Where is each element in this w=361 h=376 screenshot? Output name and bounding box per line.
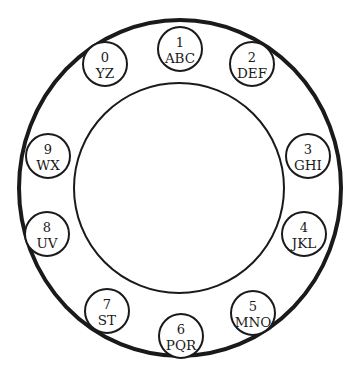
inner-circle xyxy=(74,83,284,293)
finger-hole-6[interactable]: 6PQR xyxy=(159,314,203,358)
finger-hole-7[interactable]: 7ST xyxy=(85,289,129,333)
hole-digit: 5 xyxy=(249,299,257,314)
rotary-dial: 1ABC2DEF3GHI4JKL5MNO6PQR7ST8UV9WX0YZ xyxy=(0,0,361,376)
hole-digit: 6 xyxy=(177,322,185,337)
finger-hole-8[interactable]: 8UV xyxy=(25,212,69,256)
hole-letters: PQR xyxy=(166,337,197,353)
finger-hole-3[interactable]: 3GHI xyxy=(286,134,330,178)
hole-letters: DEF xyxy=(237,65,267,81)
hole-digit: 7 xyxy=(103,297,111,312)
finger-hole-4[interactable]: 4JKL xyxy=(282,212,326,256)
hole-letters: ST xyxy=(98,312,116,328)
finger-hole-5[interactable]: 5MNO xyxy=(231,291,275,335)
hole-digit: 1 xyxy=(176,35,184,50)
hole-letters: ABC xyxy=(164,50,195,66)
hole-letters: GHI xyxy=(294,157,322,173)
hole-digit: 0 xyxy=(101,50,109,65)
hole-letters: JKL xyxy=(290,235,316,251)
hole-letters: UV xyxy=(36,235,57,251)
finger-hole-1[interactable]: 1ABC xyxy=(158,27,202,71)
hole-digit: 2 xyxy=(248,50,256,65)
hole-digit: 4 xyxy=(300,220,308,235)
hole-letters: YZ xyxy=(95,65,114,81)
hole-letters: MNO xyxy=(235,314,272,330)
finger-hole-9[interactable]: 9WX xyxy=(26,134,70,178)
hole-digit: 8 xyxy=(43,220,51,235)
finger-hole-2[interactable]: 2DEF xyxy=(230,42,274,86)
finger-hole-0[interactable]: 0YZ xyxy=(83,42,127,86)
hole-digit: 3 xyxy=(304,142,312,157)
hole-letters: WX xyxy=(36,157,60,173)
hole-digit: 9 xyxy=(44,142,52,157)
